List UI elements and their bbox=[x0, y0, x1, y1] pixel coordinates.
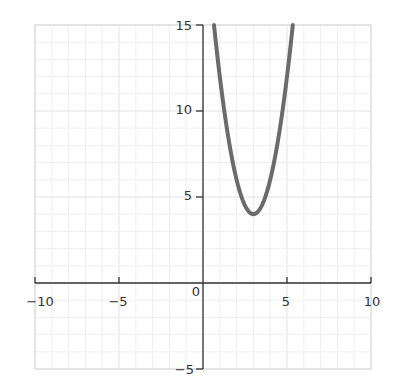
x-tick-label: 10 bbox=[364, 294, 381, 309]
origin-label: 0 bbox=[192, 284, 200, 299]
chart-canvas: −10 −5 0 5 10 15 10 5 −5 bbox=[0, 0, 396, 392]
x-tick-label: −5 bbox=[108, 294, 127, 309]
y-tick-label: 15 bbox=[175, 18, 192, 33]
y-tick-label: 5 bbox=[184, 188, 192, 203]
y-tick-label: 10 bbox=[175, 102, 192, 117]
x-tick-label: 5 bbox=[282, 294, 290, 309]
y-tick-label: −5 bbox=[175, 362, 194, 377]
x-tick-label: −10 bbox=[26, 294, 53, 309]
